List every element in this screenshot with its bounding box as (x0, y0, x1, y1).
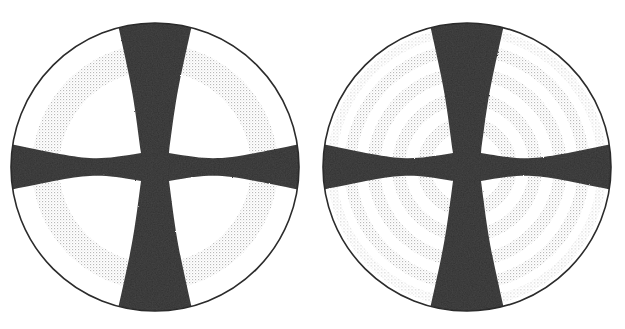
figure-panel: Two circular cross-and-rings diagrams le… (0, 0, 625, 329)
diagram-canvas (0, 0, 625, 329)
